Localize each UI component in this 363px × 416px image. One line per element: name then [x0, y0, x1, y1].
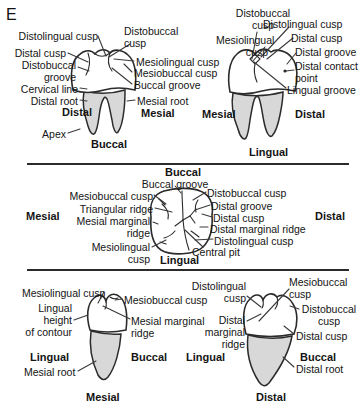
buccal-view-label-cervical-line: Cervical line — [8, 83, 78, 95]
lingual-view-label-lingual-groove: Lingual groove — [287, 84, 356, 96]
occlusal-view-label-central-pit: Central pit — [192, 246, 240, 258]
mesial-view-label-mesial-root: Mesial root — [24, 366, 75, 378]
distal-view-label-distobuccal-cusp: Distobuccal cusp — [300, 303, 358, 327]
occlusal-view-label-mesiobuccal-cusp: Mesiobuccal cusp — [60, 190, 153, 202]
lingual-view-label-distolingual-cusp: Distolingual cusp — [263, 18, 342, 30]
mesial-view-orientation-lingual: Lingual — [30, 351, 69, 363]
lingual-view-label-distal-groove: Distal groove — [295, 46, 356, 58]
buccal-view-label-buccal-groove: Buccal groove — [134, 79, 201, 91]
occlusal-view-label-distal-groove: Distal groove — [211, 200, 272, 212]
mesial-view-orientation-buccal: Buccal — [131, 351, 167, 363]
lingual-view-name: Lingual — [249, 146, 288, 158]
occlusal-view-label-triangular-ridge: Triangular ridge — [60, 203, 153, 215]
distal-view-label-mesiobuccal-cusp: Mesiobuccal cusp — [289, 276, 347, 300]
occlusal-view-label-buccal-groove: Buccal groove — [141, 178, 209, 190]
buccal-view-name: Buccal — [84, 138, 134, 150]
buccal-view-label-distolingual-cusp: Distolingual cusp — [8, 30, 98, 42]
lingual-view-label-mesiolingual-cusp: Mesiolingual cusp — [216, 34, 268, 58]
mesial-view-label-mesial-marginal-ridge: Mesial marginal ridge — [131, 315, 205, 339]
occlusal-view-orientation-mesial: Mesial — [26, 210, 60, 222]
figure-letter: E — [6, 6, 17, 24]
molar-occlusal-view-drawing — [151, 188, 213, 253]
occlusal-view-label-distal-marginal-ridge: Distal marginal ridge — [210, 223, 306, 235]
lingual-view-label-distal-contact-point: Distal contact point — [295, 60, 358, 84]
buccal-view-label-distal-cusp: Distal cusp — [8, 47, 66, 59]
buccal-view-orientation-distal: Distal — [48, 106, 92, 118]
occlusal-view-label-mesial-marginal-ridge: Mesial marginal ridge — [57, 215, 150, 239]
distal-view-label-distolingual-cusp: Distolingual cusp — [186, 280, 246, 304]
distal-root — [247, 335, 292, 386]
buccal-view-orientation-mesial: Mesial — [141, 107, 175, 119]
molar-distal-view-drawing — [244, 294, 297, 386]
occlusal-view-label-mesiolingual-cusp: Mesiolingual cusp — [57, 241, 150, 265]
mesial-distal-roots — [232, 92, 283, 139]
occlusal-view-bottom-label-lingual: Lingual — [160, 254, 199, 266]
distal-view-label-distal-root: Distal root — [296, 363, 343, 375]
distal-view-orientation-lingual: Lingual — [186, 351, 225, 363]
buccal-view-label-apex: Apex — [8, 128, 66, 140]
tooth-anatomy-figure: E — [0, 0, 363, 416]
molar-mesial-view-drawing — [88, 294, 127, 379]
buccal-view-label-distobuccal-groove: Distobuccal groove — [8, 59, 76, 83]
distal-view-label-distal-cusp: Distal cusp — [296, 330, 347, 342]
occlusal-view-top-label-buccal: Buccal — [155, 166, 211, 178]
lingual-view-orientation-mesial: Mesial — [202, 108, 236, 120]
mesial-view-name: Mesial — [86, 391, 120, 403]
distal-view-name: Distal — [256, 391, 286, 403]
crown-outline — [88, 294, 127, 332]
distal-contact-point-dot — [283, 69, 286, 72]
molar-buccal-view-drawing — [71, 50, 135, 134]
distal-view-orientation-buccal: Buccal — [300, 351, 336, 363]
lingual-view-orientation-distal: Distal — [295, 108, 325, 120]
mesial-root — [90, 331, 121, 380]
buccal-view-label-mesiobuccal-cusp: Mesiobuccal cusp — [134, 67, 217, 79]
mesial-view-label-lingual-height-of-contour: Lingual height of contour — [18, 302, 72, 338]
lingual-view-label-distal-cusp: Distal cusp — [291, 32, 342, 44]
occlusal-view-label-distobuccal-cusp: Distobuccal cusp — [207, 187, 286, 199]
occlusal-view-orientation-distal: Distal — [315, 210, 345, 222]
mesial-view-label-mesiolingual-cusp: Mesiolingual cusp — [22, 287, 105, 299]
buccal-view-label-distobuccal-cusp: Distobuccal cusp — [124, 25, 178, 49]
distal-view-label-distal-marginal-ridge: Distal marginal ridge — [197, 314, 245, 350]
buccal-view-label-mesial-root: Mesial root — [137, 95, 188, 107]
